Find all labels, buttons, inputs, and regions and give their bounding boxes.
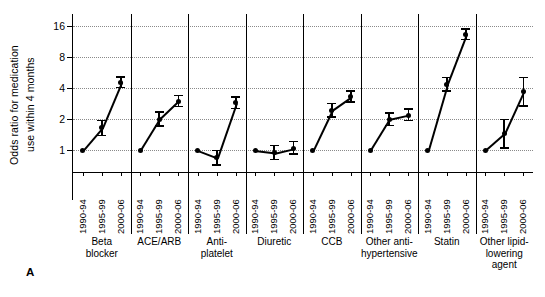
error-bar-cap [385, 112, 394, 114]
x-period-label: 1995-99 [210, 176, 224, 234]
data-point [118, 80, 123, 85]
figure-panel-a: Odds ratio for medication use within 4 m… [0, 0, 545, 297]
group-label: Other lipid- lowering agent [476, 236, 534, 271]
group-label: Anti- platelet [188, 236, 246, 259]
error-bar-cap [461, 39, 470, 41]
x-period-label: 2000-06 [171, 176, 185, 234]
x-period-label: 2000-06 [344, 176, 358, 234]
data-point [310, 148, 315, 153]
y-tick-label-2: 2 [59, 114, 65, 124]
error-bar-cap [270, 159, 279, 161]
error-bar-cap [385, 125, 394, 127]
y-axis-title: Odds ratio for medication use within 4 m… [4, 10, 44, 200]
group-label: Diuretic [246, 236, 304, 248]
error-bar-cap [270, 145, 279, 147]
error-bar-cap [346, 90, 355, 92]
data-point [368, 148, 373, 153]
y-axis-title-line-2: use within 4 months [22, 10, 38, 200]
error-bar-cap [116, 76, 125, 78]
error-bar-cap [346, 101, 355, 103]
error-bar-cap [212, 150, 221, 152]
group-label: Other anti- hypertensive [361, 236, 419, 259]
y-tick-label-1: 1 [59, 145, 65, 155]
error-bar-cap [519, 77, 528, 79]
x-axis-group-labels: Beta blockerACE/ARBAnti- plateletDiureti… [73, 236, 533, 288]
error-bar-cap [289, 153, 298, 155]
x-axis-period-labels: 1990-941995-992000-061990-941995-992000-… [73, 176, 533, 236]
y-tick-label-16: 16 [53, 21, 65, 31]
y-tick-16 [67, 26, 73, 27]
data-point [138, 148, 143, 153]
x-period-label: 1995-99 [325, 176, 339, 234]
error-bar-cap [500, 147, 509, 149]
error-bar-cap [327, 116, 336, 118]
error-bar-cap [231, 96, 240, 98]
data-point [253, 148, 258, 153]
error-bar-cap [442, 77, 451, 79]
error-bar-cap [404, 120, 413, 122]
data-point [502, 131, 507, 136]
x-period-label: 2000-06 [459, 176, 473, 234]
error-bar-cap [174, 95, 183, 97]
y-tick-label-8: 8 [59, 52, 65, 62]
x-period-label: 2000-06 [516, 176, 530, 234]
x-period-label: 1990-94 [133, 176, 147, 234]
data-point [99, 125, 104, 130]
data-point [483, 148, 488, 153]
error-bar-cap [461, 28, 470, 30]
plot-area: 124816 [73, 18, 533, 172]
data-point [521, 89, 526, 94]
x-period-label: 2000-06 [114, 176, 128, 234]
series-line-segment [102, 82, 123, 128]
x-period-label: 1995-99 [267, 176, 281, 234]
x-period-label: 2000-06 [286, 176, 300, 234]
x-period-label: 1990-94 [76, 176, 90, 234]
y-tick-1 [67, 150, 73, 151]
error-bar-cap [212, 164, 221, 166]
data-point [80, 148, 85, 153]
group-label: Beta blocker [73, 236, 131, 259]
data-point [176, 99, 181, 104]
group-label: CCB [303, 236, 361, 248]
error-bar-cap [500, 119, 509, 121]
y-tick-8 [67, 57, 73, 58]
data-point [214, 155, 219, 160]
x-period-label: 1995-99 [440, 176, 454, 234]
error-bar-cap [116, 87, 125, 89]
x-period-label: 1995-99 [152, 176, 166, 234]
data-point [387, 117, 392, 122]
group-label: ACE/ARB [131, 236, 189, 248]
data-point [348, 94, 353, 99]
series-line-segment [428, 84, 449, 151]
data-point [329, 108, 334, 113]
error-bar-cap [231, 108, 240, 110]
x-period-label: 1990-94 [363, 176, 377, 234]
error-bar-cap [155, 125, 164, 127]
group-label: Statin [418, 236, 476, 248]
x-period-label: 1990-94 [478, 176, 492, 234]
error-bar-cap [97, 120, 106, 122]
error-bar-cap [97, 135, 106, 137]
x-period-label: 1995-99 [497, 176, 511, 234]
error-bar-cap [155, 111, 164, 113]
x-period-label: 1990-94 [306, 176, 320, 234]
error-bar-cap [289, 141, 298, 143]
y-tick-label-4: 4 [59, 83, 65, 93]
x-period-label: 2000-06 [229, 176, 243, 234]
error-bar-cap [404, 108, 413, 110]
data-point [291, 146, 296, 151]
y-axis-title-line-1: Odds ratio for medication [6, 10, 22, 200]
y-tick-4 [67, 88, 73, 89]
x-period-label: 1995-99 [382, 176, 396, 234]
x-period-label: 1990-94 [421, 176, 435, 234]
y-tick-2 [67, 119, 73, 120]
error-bar-cap [174, 106, 183, 108]
data-point [463, 32, 468, 37]
data-point [157, 117, 162, 122]
data-point [406, 113, 411, 118]
error-bar-cap [327, 103, 336, 105]
error-bar-cap [519, 105, 528, 107]
x-period-label: 1995-99 [95, 176, 109, 234]
x-period-label: 2000-06 [401, 176, 415, 234]
error-bar-cap [442, 90, 451, 92]
